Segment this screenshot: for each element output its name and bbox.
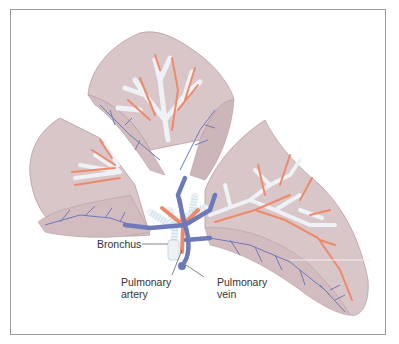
- bronchus-tube: [168, 240, 179, 260]
- label-pulmonary-artery-line1: Pulmonary: [121, 276, 171, 288]
- label-pulmonary-vein: Pulmonary vein: [217, 276, 267, 300]
- vein-end: [178, 262, 186, 270]
- label-pulmonary-vein-line1: Pulmonary: [217, 276, 267, 288]
- label-bronchus: Bronchus: [97, 238, 141, 250]
- label-pulmonary-artery-line2: artery: [121, 288, 171, 300]
- vein-leader-line: [186, 265, 204, 277]
- lung-lobes-illustration: [0, 0, 399, 344]
- label-pulmonary-vein-line2: vein: [217, 288, 267, 300]
- label-pulmonary-artery: Pulmonary artery: [121, 276, 171, 300]
